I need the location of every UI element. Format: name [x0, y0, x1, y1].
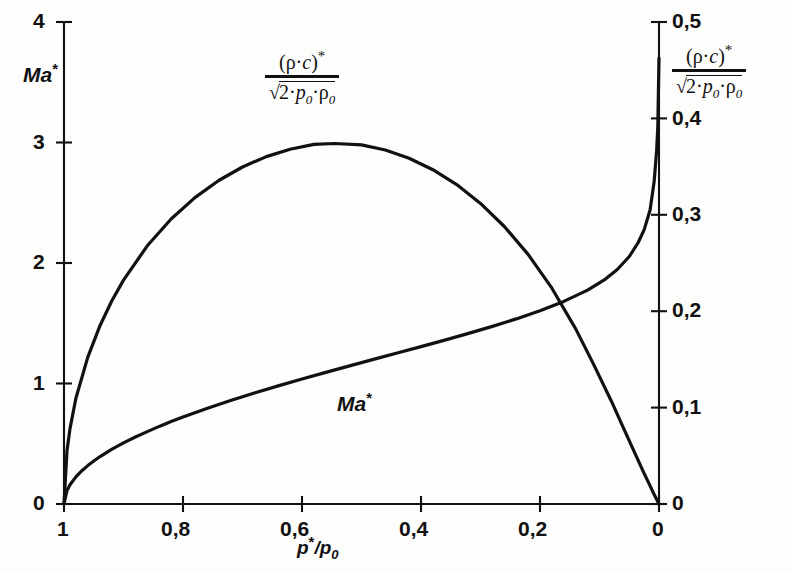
left-tick-label-0: 0 [33, 492, 45, 513]
left-tick-label-1: 1 [33, 372, 45, 393]
fraction-numerator: (ρ·c)* [265, 48, 339, 74]
left-tick-label-3: 3 [33, 131, 45, 152]
x-axis-name: p*/p0 [297, 534, 339, 561]
x-axis-name-sub: 0 [331, 547, 338, 562]
right-tick-label-0: 0 [672, 492, 684, 513]
right-num-c: c [709, 45, 718, 67]
den-rho: ρ [319, 81, 329, 103]
axes-group [64, 22, 659, 504]
right-tick-label-1: 0,1 [672, 396, 701, 417]
right-tick-label-3: 0,3 [672, 203, 701, 224]
right-den-dot2: · [719, 75, 726, 97]
right-tick-label-4: 0,4 [672, 107, 701, 128]
den-rho-sub: 0 [329, 92, 336, 107]
num-open-paren: ( [279, 51, 286, 73]
x-tick-label-0-4: 0,4 [399, 518, 428, 539]
right-den-p: p [703, 75, 713, 97]
right-num-open-paren: ( [686, 45, 693, 67]
fraction-bar [265, 75, 339, 78]
x-tick-label-0-8: 0,8 [161, 518, 190, 539]
right-num-rho: ρ [693, 45, 703, 67]
mass-flux-curve-plot [64, 144, 659, 505]
mach-curve-label-star: * [366, 389, 372, 406]
left-axis-name: Ma* [23, 61, 58, 85]
right-axis-fraction: (ρ·c)* √2·p0·ρ0 [672, 42, 746, 101]
left-axis-name-star: * [52, 60, 58, 77]
den-p: p [296, 81, 306, 103]
right-fraction-denominator: √2·p0·ρ0 [672, 74, 746, 101]
num-star: * [318, 48, 326, 64]
mach-curve-label-text: Ma [337, 392, 366, 415]
left-tick-label-2: 2 [33, 251, 45, 272]
right-den-radicand: 2·p0·ρ0 [686, 75, 742, 101]
x-axis-name-p2: p [320, 537, 332, 558]
left-axis-name-text: Ma [23, 63, 52, 86]
chart-figure: 4 3 2 1 0 Ma* 0,5 0,4 0,3 0,2 0,1 0 1 0,… [0, 0, 792, 572]
mach-curve-plot [64, 58, 659, 504]
right-den-rho-sub: 0 [736, 86, 743, 101]
num-rho: ρ [286, 51, 296, 73]
right-num-close-paren: ) [718, 45, 725, 67]
den-dot1: · [289, 81, 296, 103]
num-c: c [302, 51, 311, 73]
mass-flux-fraction: (ρ·c)* √2·p0·ρ0 [265, 48, 339, 107]
den-dot2: · [312, 81, 319, 103]
x-tick-label-1: 1 [57, 518, 69, 539]
x-tick-label-0-2: 0,2 [518, 518, 547, 539]
x-tick-label-0: 0 [652, 518, 664, 539]
den-two: 2 [279, 81, 289, 103]
right-tick-label-2: 0,2 [672, 299, 701, 320]
right-fraction-bar [672, 69, 746, 72]
right-den-two: 2 [686, 75, 696, 97]
den-radicand: 2·p0·ρ0 [279, 81, 335, 107]
right-den-rho: ρ [726, 75, 736, 97]
fraction-denominator: √2·p0·ρ0 [265, 80, 339, 107]
right-den-dot1: · [696, 75, 703, 97]
x-axis-name-p: p [297, 537, 309, 558]
mass-flux-curve-label: (ρ·c)* √2·p0·ρ0 [265, 48, 339, 107]
num-close-paren: ) [311, 51, 318, 73]
left-tick-label-4: 4 [33, 10, 45, 31]
right-axis-label: (ρ·c)* √2·p0·ρ0 [672, 42, 746, 101]
right-num-star: * [725, 42, 733, 58]
right-tick-label-5: 0,5 [672, 10, 701, 31]
mach-curve-label: Ma* [337, 390, 372, 414]
right-fraction-numerator: (ρ·c)* [672, 42, 746, 68]
